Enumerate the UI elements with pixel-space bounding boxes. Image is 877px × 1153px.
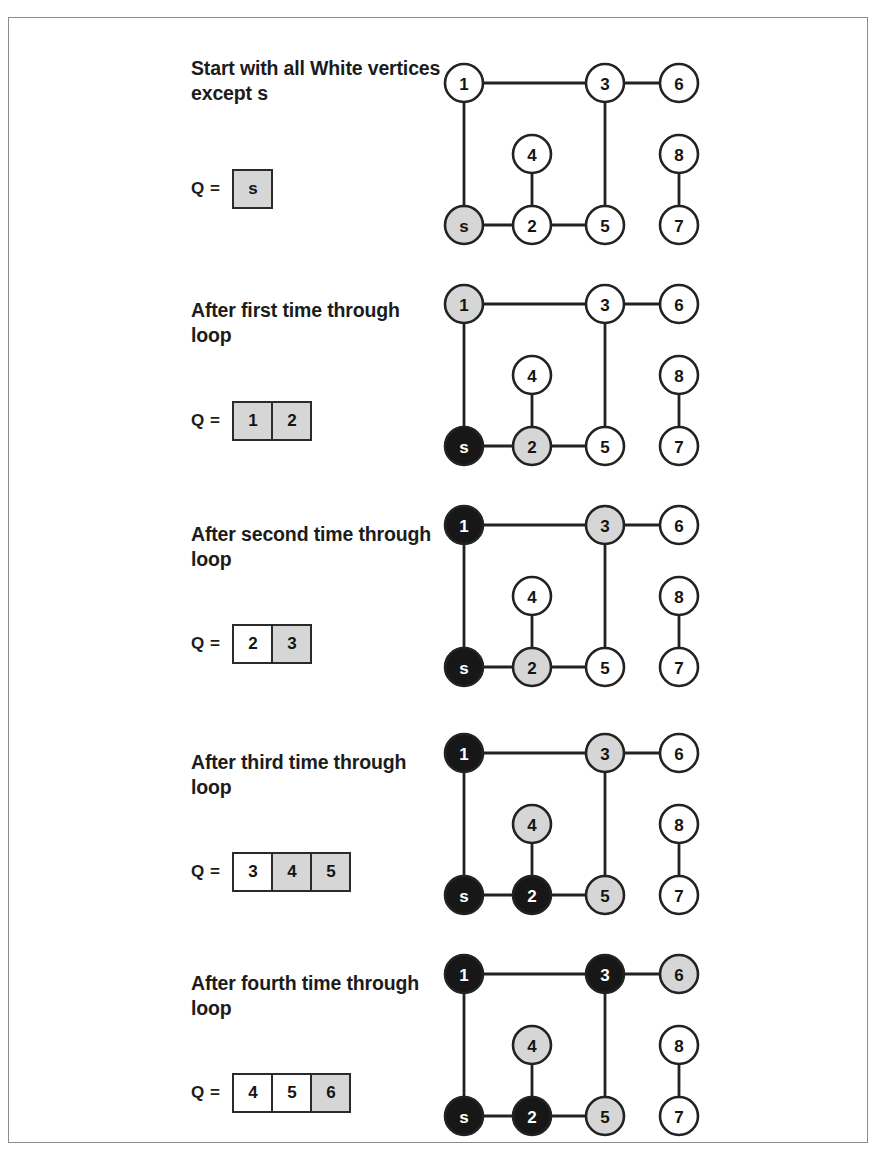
node-label-s: s xyxy=(459,438,468,457)
queue-cell[interactable]: 1 xyxy=(232,401,273,441)
graph-node-7[interactable]: 7 xyxy=(660,1097,698,1135)
graph-node-5[interactable]: 5 xyxy=(586,876,624,914)
graph-node-2[interactable]: 2 xyxy=(513,1097,551,1135)
graph-node-s[interactable]: s xyxy=(445,427,483,465)
queue-row: Q =23 xyxy=(191,624,312,664)
graph-node-6[interactable]: 6 xyxy=(660,506,698,544)
panel-caption: After first time through loop xyxy=(191,298,441,347)
graph-node-1[interactable]: 1 xyxy=(445,64,483,102)
node-label-7: 7 xyxy=(674,659,683,678)
graph-node-3[interactable]: 3 xyxy=(586,285,624,323)
graph-node-s[interactable]: s xyxy=(445,1097,483,1135)
node-label-1: 1 xyxy=(459,966,468,985)
queue-cell[interactable]: 3 xyxy=(232,852,273,892)
queue-cells: 12 xyxy=(232,401,312,441)
node-label-6: 6 xyxy=(674,966,683,985)
graph-node-4[interactable]: 4 xyxy=(513,805,551,843)
queue-cell[interactable]: s xyxy=(232,169,273,209)
graph-node-2[interactable]: 2 xyxy=(513,648,551,686)
graph-node-6[interactable]: 6 xyxy=(660,955,698,993)
graph-node-1[interactable]: 1 xyxy=(445,734,483,772)
queue-row: Q =456 xyxy=(191,1073,351,1113)
node-label-6: 6 xyxy=(674,517,683,536)
bfs-step-panel-4: After third time through loopQ =34513648… xyxy=(9,702,869,924)
node-label-2: 2 xyxy=(527,1108,536,1127)
node-label-6: 6 xyxy=(674,296,683,315)
node-label-s: s xyxy=(459,887,468,906)
graph-wrapper: 13648s257 xyxy=(427,46,727,246)
graph-node-6[interactable]: 6 xyxy=(660,285,698,323)
node-label-8: 8 xyxy=(674,146,683,165)
queue-cells: s xyxy=(232,169,273,209)
graph-node-8[interactable]: 8 xyxy=(660,1026,698,1064)
node-label-8: 8 xyxy=(674,1037,683,1056)
node-label-1: 1 xyxy=(459,745,468,764)
graph-node-8[interactable]: 8 xyxy=(660,577,698,615)
node-label-s: s xyxy=(459,659,468,678)
graph-node-1[interactable]: 1 xyxy=(445,506,483,544)
node-label-3: 3 xyxy=(600,75,609,94)
graph-wrapper: 13648s257 xyxy=(427,267,727,467)
node-label-4: 4 xyxy=(527,367,537,386)
node-label-8: 8 xyxy=(674,367,683,386)
queue-cell[interactable]: 2 xyxy=(271,401,312,441)
graph-node-5[interactable]: 5 xyxy=(586,648,624,686)
graph-node-5[interactable]: 5 xyxy=(586,206,624,244)
graph-node-5[interactable]: 5 xyxy=(586,427,624,465)
bfs-step-panel-1: Start with all White vertices except sQ … xyxy=(9,32,869,254)
graph-node-4[interactable]: 4 xyxy=(513,1026,551,1064)
graph-node-2[interactable]: 2 xyxy=(513,206,551,244)
graph-node-4[interactable]: 4 xyxy=(513,577,551,615)
graph-node-1[interactable]: 1 xyxy=(445,285,483,323)
queue-cell[interactable]: 5 xyxy=(310,852,351,892)
node-label-8: 8 xyxy=(674,588,683,607)
graph-node-7[interactable]: 7 xyxy=(660,206,698,244)
queue-label: Q = xyxy=(191,179,220,199)
graph-node-7[interactable]: 7 xyxy=(660,876,698,914)
node-label-5: 5 xyxy=(600,887,609,906)
graph-node-4[interactable]: 4 xyxy=(513,135,551,173)
queue-label: Q = xyxy=(191,411,220,431)
graph-node-6[interactable]: 6 xyxy=(660,734,698,772)
queue-cell[interactable]: 6 xyxy=(310,1073,351,1113)
graph-node-2[interactable]: 2 xyxy=(513,876,551,914)
bfs-graph: 13648s257 xyxy=(427,937,727,1137)
graph-node-4[interactable]: 4 xyxy=(513,356,551,394)
graph-node-6[interactable]: 6 xyxy=(660,64,698,102)
node-label-s: s xyxy=(459,1108,468,1127)
node-label-4: 4 xyxy=(527,816,537,835)
node-label-4: 4 xyxy=(527,146,537,165)
graph-node-1[interactable]: 1 xyxy=(445,955,483,993)
graph-node-3[interactable]: 3 xyxy=(586,64,624,102)
graph-node-7[interactable]: 7 xyxy=(660,427,698,465)
panel-caption: After second time through loop xyxy=(191,522,441,571)
queue-cell[interactable]: 4 xyxy=(271,852,312,892)
graph-node-7[interactable]: 7 xyxy=(660,648,698,686)
panel-caption: Start with all White vertices except s xyxy=(191,56,441,105)
graph-node-3[interactable]: 3 xyxy=(586,955,624,993)
node-label-1: 1 xyxy=(459,296,468,315)
node-label-3: 3 xyxy=(600,296,609,315)
graph-wrapper: 13648s257 xyxy=(427,716,727,916)
graph-node-5[interactable]: 5 xyxy=(586,1097,624,1135)
queue-cell[interactable]: 5 xyxy=(271,1073,312,1113)
node-label-2: 2 xyxy=(527,438,536,457)
graph-node-3[interactable]: 3 xyxy=(586,506,624,544)
queue-label: Q = xyxy=(191,1083,220,1103)
panel-caption: After third time through loop xyxy=(191,750,441,799)
queue-label: Q = xyxy=(191,862,220,882)
queue-cells: 345 xyxy=(232,852,351,892)
graph-node-s[interactable]: s xyxy=(445,648,483,686)
graph-node-2[interactable]: 2 xyxy=(513,427,551,465)
node-label-2: 2 xyxy=(527,887,536,906)
node-label-3: 3 xyxy=(600,745,609,764)
graph-node-8[interactable]: 8 xyxy=(660,356,698,394)
graph-node-8[interactable]: 8 xyxy=(660,805,698,843)
graph-node-3[interactable]: 3 xyxy=(586,734,624,772)
graph-node-8[interactable]: 8 xyxy=(660,135,698,173)
queue-cell[interactable]: 4 xyxy=(232,1073,273,1113)
graph-node-s[interactable]: s xyxy=(445,876,483,914)
queue-cell[interactable]: 3 xyxy=(271,624,312,664)
graph-node-s[interactable]: s xyxy=(445,206,483,244)
queue-cell[interactable]: 2 xyxy=(232,624,273,664)
